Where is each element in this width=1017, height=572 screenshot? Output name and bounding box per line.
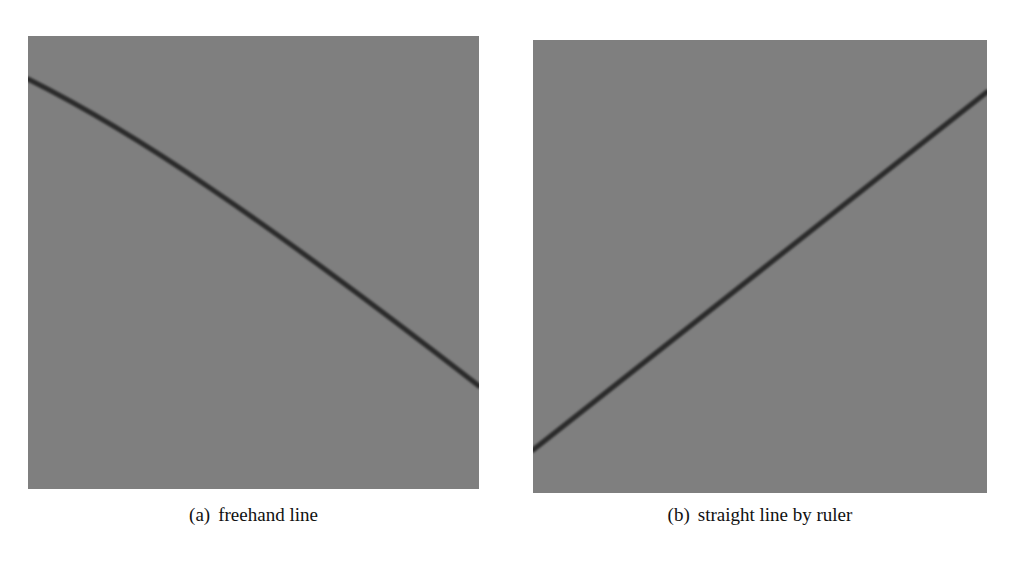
- caption-b: (b)straight line by ruler: [533, 504, 987, 526]
- caption-b-label: (b): [668, 504, 690, 525]
- caption-a: (a)freehand line: [28, 504, 479, 526]
- caption-a-text: freehand line: [218, 504, 318, 525]
- figure-panel-b-straight-line: [533, 40, 987, 493]
- freehand-line-drawing: [28, 36, 479, 489]
- caption-a-label: (a): [189, 504, 210, 525]
- straight-line-drawing: [533, 40, 987, 493]
- caption-b-text: straight line by ruler: [698, 504, 853, 525]
- figure-panel-a-freehand-line: [28, 36, 479, 489]
